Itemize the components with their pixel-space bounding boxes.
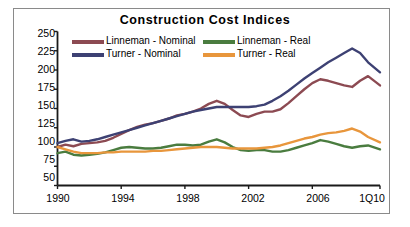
- axes-group: [54, 32, 380, 190]
- chart-figure: Construction Cost Indices 250 225 200 17…: [0, 0, 410, 227]
- series-line-turner-nominal: [58, 48, 381, 143]
- series-group: [58, 48, 381, 155]
- chart-plot-area: [0, 0, 410, 227]
